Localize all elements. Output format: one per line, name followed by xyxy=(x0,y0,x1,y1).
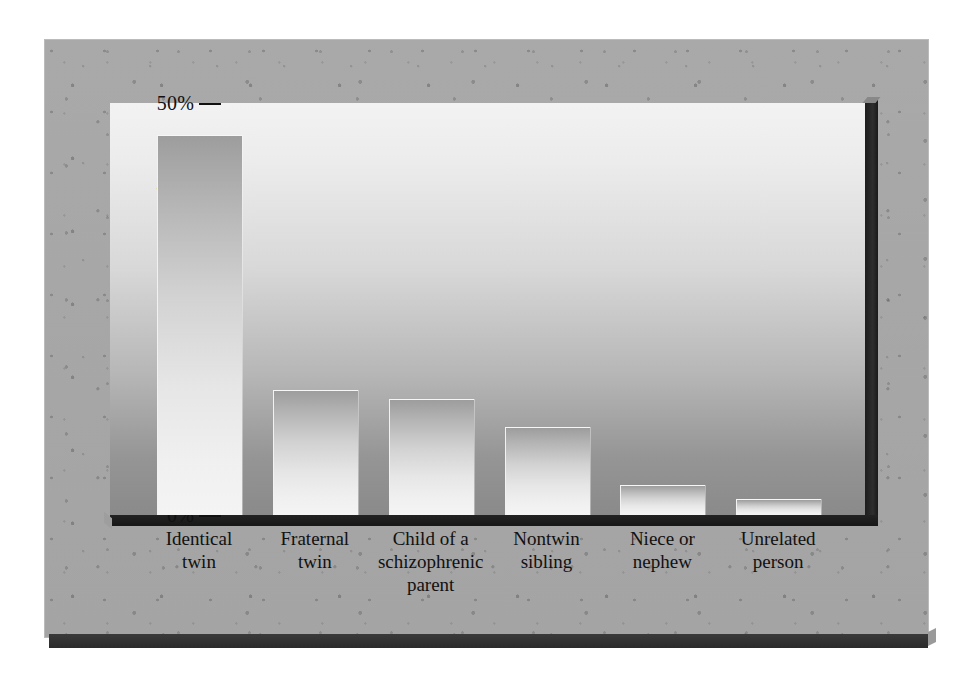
x-axis-label-line: Fraternal xyxy=(255,527,375,550)
plot-floor-baseline xyxy=(110,515,878,526)
bar-5 xyxy=(620,485,705,515)
x-axis-label-4: Nontwinsibling xyxy=(487,527,607,573)
x-axis-label-line: Nontwin xyxy=(487,527,607,550)
plot-right-wall xyxy=(865,100,878,518)
x-axis-label-line: schizophrenic xyxy=(371,550,491,573)
figure-card-base-shadow xyxy=(49,634,928,648)
x-axis-label-2: Fraternaltwin xyxy=(255,527,375,573)
x-axis-labels: IdenticaltwinFraternaltwinChild of aschi… xyxy=(110,527,878,617)
x-axis-label-line: Child of a xyxy=(371,527,491,550)
x-axis-label-6: Unrelatedperson xyxy=(718,527,838,573)
bar-4 xyxy=(505,427,590,515)
x-axis-label-1: Identicaltwin xyxy=(139,527,259,573)
y-axis-tick-major xyxy=(199,515,221,517)
x-axis-label-line: parent xyxy=(371,573,491,596)
bar-6 xyxy=(736,499,821,515)
x-axis-label-line: person xyxy=(718,550,838,573)
x-axis-label-line: twin xyxy=(139,550,259,573)
bar-2 xyxy=(273,390,358,515)
x-axis-label-line: twin xyxy=(255,550,375,573)
x-axis-label-line: Unrelated xyxy=(718,527,838,550)
x-axis-label-line: nephew xyxy=(602,550,722,573)
x-axis-label-5: Niece ornephew xyxy=(602,527,722,573)
bar-1 xyxy=(157,135,242,515)
y-axis-tick-label: 50% xyxy=(157,92,194,115)
figure-root: 0%10%20%30%40%50% IdenticaltwinFraternal… xyxy=(0,0,979,690)
x-axis-label-line: Identical xyxy=(139,527,259,550)
bar-3 xyxy=(389,399,474,515)
y-axis-tick-major xyxy=(199,103,221,105)
x-axis-label-line: sibling xyxy=(487,550,607,573)
x-axis-label-line: Niece or xyxy=(602,527,722,550)
x-axis-label-3: Child of aschizophrenicparent xyxy=(371,527,491,596)
plot-area-wrapper: 0%10%20%30%40%50% xyxy=(110,103,865,515)
